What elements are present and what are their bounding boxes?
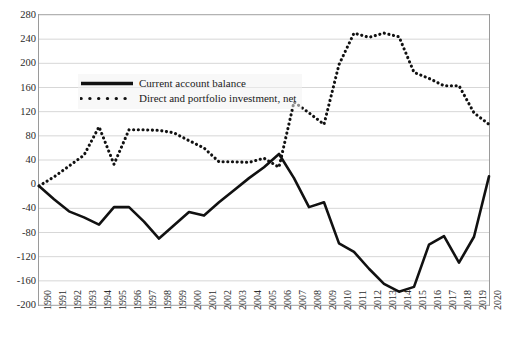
x-axis-tick-label: 2003: [238, 290, 248, 310]
x-axis-tick-label: 1993: [88, 290, 98, 310]
x-axis-tick-label: 2019: [478, 290, 488, 310]
legend-label-current-account-balance: Current account balance: [139, 78, 246, 89]
legend-swatch-dotted: [80, 93, 134, 104]
x-axis-tick-label: 2016: [433, 290, 443, 310]
legend-item-current-account-balance: Current account balance: [80, 76, 296, 91]
x-axis-tick-label: 1996: [133, 290, 143, 310]
x-axis-tick-label: 1997: [148, 290, 158, 310]
legend-item-direct-portfolio-investment: Direct and portfolio investment, net: [80, 91, 296, 106]
x-axis-tick-label: 1992: [73, 290, 83, 310]
line-chart: 28024020016012080400-40-80-120-160-200 1…: [0, 0, 507, 348]
x-axis-tick-label: 1999: [178, 290, 188, 310]
x-axis-tick-label: 1998: [163, 290, 173, 310]
x-axis-tick-label: 2008: [313, 290, 323, 310]
x-axis-tick-label: 1990: [43, 290, 53, 310]
x-axis-tick-label: 1994: [103, 290, 113, 310]
x-axis-tick-label: 2013: [388, 290, 398, 310]
x-axis-tick-label: 2020: [493, 290, 503, 310]
x-axis-tick-label: 2009: [328, 290, 338, 310]
x-axis-tick-label: 2014: [403, 290, 413, 310]
x-axis-tick-label: 2007: [298, 290, 308, 310]
x-axis-tick-label: 2004: [253, 290, 263, 310]
x-axis-tick-label: 2012: [373, 290, 383, 310]
legend-label-direct-portfolio-investment: Direct and portfolio investment, net: [139, 93, 296, 104]
x-axis-tick-label: 2017: [448, 290, 458, 310]
x-axis-tick-label: 2002: [223, 290, 233, 310]
x-axis-tick-label: 2010: [343, 290, 353, 310]
chart-legend: Current account balance Direct and portf…: [78, 74, 302, 109]
x-axis-labels: 1990199119921993199419951996199719981999…: [0, 0, 507, 348]
x-axis-tick-label: 2006: [283, 290, 293, 310]
x-axis-tick-label: 2005: [268, 290, 278, 310]
x-axis-tick-label: 2018: [463, 290, 473, 310]
x-axis-tick-label: 2001: [208, 290, 218, 310]
x-axis-tick-label: 2011: [358, 290, 368, 310]
x-axis-tick-label: 1995: [118, 290, 128, 310]
x-axis-tick-label: 2000: [193, 290, 203, 310]
x-axis-tick-label: 2015: [418, 290, 428, 310]
x-axis-tick-label: 1991: [58, 290, 68, 310]
legend-swatch-solid: [80, 78, 134, 89]
